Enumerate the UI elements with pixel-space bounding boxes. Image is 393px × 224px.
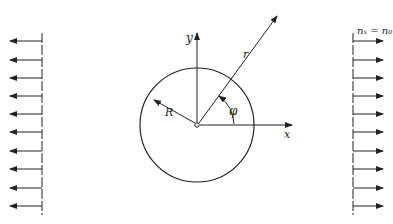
right-load: nₓ = n₀: [353, 25, 392, 215]
load-label: nₓ = n₀: [357, 25, 392, 36]
hole-geometry: y x R r φ: [140, 16, 292, 182]
radius-label: R: [164, 106, 173, 119]
left-load-arrows: [10, 41, 42, 206]
x-axis-label: x: [284, 128, 291, 141]
y-axis-label: y: [185, 31, 193, 45]
left-load: [10, 33, 42, 215]
right-load-arrows: [353, 41, 383, 206]
polar-radius-label: r: [243, 48, 249, 61]
plate-diagram: nₓ = n₀ y x R r φ: [0, 0, 393, 224]
origin-point: [195, 123, 199, 127]
radius-R-arrow: [154, 100, 195, 123]
diagram-canvas: nₓ = n₀ y x R r φ: [0, 0, 393, 224]
angle-label: φ: [229, 104, 238, 118]
